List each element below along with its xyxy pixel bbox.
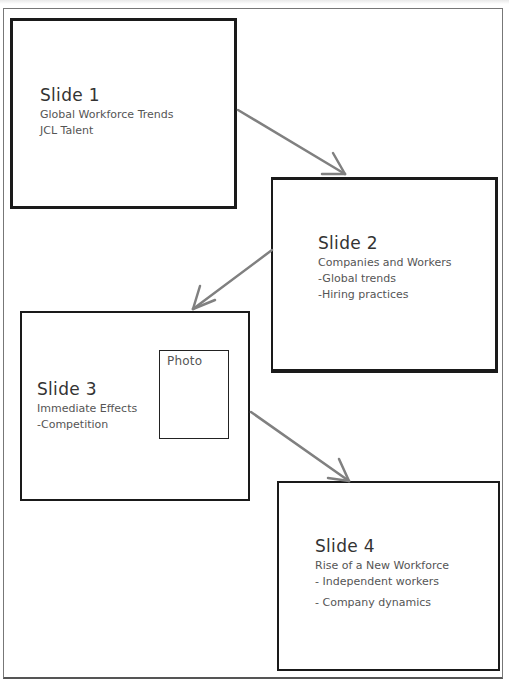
- slide-4-title: Slide 4: [315, 538, 449, 555]
- slide-2-line-2: -Global trends: [318, 271, 452, 287]
- slide-3-line-1: Immediate Effects: [37, 401, 137, 417]
- slide-1-line-1: Global Workforce Trends: [40, 107, 173, 123]
- photo-label: Photo: [167, 354, 202, 368]
- slide-3-text: Slide 3 Immediate Effects -Competition: [37, 381, 137, 433]
- slide-4-text: Slide 4 Rise of a New Workforce - Indepe…: [315, 538, 449, 611]
- slide-4-line-2: - Independent workers: [315, 574, 449, 590]
- top-clipped-edge: [0, 0, 509, 4]
- slide-2-line-1: Companies and Workers: [318, 255, 452, 271]
- photo-placeholder[interactable]: Photo: [159, 350, 229, 439]
- slide-4-line-3: - Company dynamics: [315, 595, 449, 611]
- slide-2-title: Slide 2: [318, 235, 452, 252]
- slide-2-line-3: -Hiring practices: [318, 287, 452, 303]
- slide-3-title: Slide 3: [37, 381, 137, 398]
- slide-3-line-2: -Competition: [37, 417, 137, 433]
- slide-1-line-2: JCL Talent: [40, 123, 173, 139]
- slide-4-line-1: Rise of a New Workforce: [315, 558, 449, 574]
- slide-1-text: Slide 1 Global Workforce Trends JCL Tale…: [40, 87, 173, 139]
- slide-1-title: Slide 1: [40, 87, 173, 104]
- slide-2-text: Slide 2 Companies and Workers -Global tr…: [318, 235, 452, 303]
